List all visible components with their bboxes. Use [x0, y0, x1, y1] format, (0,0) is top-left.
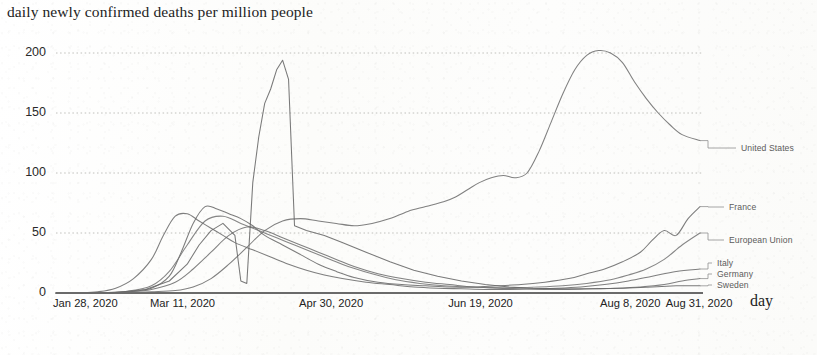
x-axis-tick-0: Jan 28, 2020 — [53, 297, 118, 309]
series-label-european-union: European Union — [729, 235, 793, 245]
x-axis-tick-3: Jun 19, 2020 — [448, 297, 513, 309]
x-axis-tick-2: Apr 30, 2020 — [299, 297, 363, 309]
x-axis-title: day — [750, 292, 773, 310]
chart-title: daily newly confirmed deaths per million… — [7, 3, 313, 21]
series-label-france: France — [729, 202, 756, 212]
y-axis-tick-150: 150 — [0, 105, 46, 119]
y-axis-tick-100: 100 — [0, 165, 46, 179]
y-axis-tick-200: 200 — [0, 45, 46, 59]
series-label-germany: Germany — [717, 269, 753, 279]
y-axis-tick-50: 50 — [0, 225, 46, 239]
x-axis-tick-5: Aug 31, 2020 — [666, 297, 733, 309]
x-axis-tick-4: Aug 8, 2020 — [600, 297, 660, 309]
x-axis-tick-1: Mar 11, 2020 — [150, 297, 215, 309]
y-axis-tick-0: 0 — [0, 285, 46, 299]
series-label-italy: Italy — [717, 258, 733, 268]
series-label-sweden: Sweden — [717, 280, 749, 290]
series-label-united-states: United States — [741, 143, 794, 153]
